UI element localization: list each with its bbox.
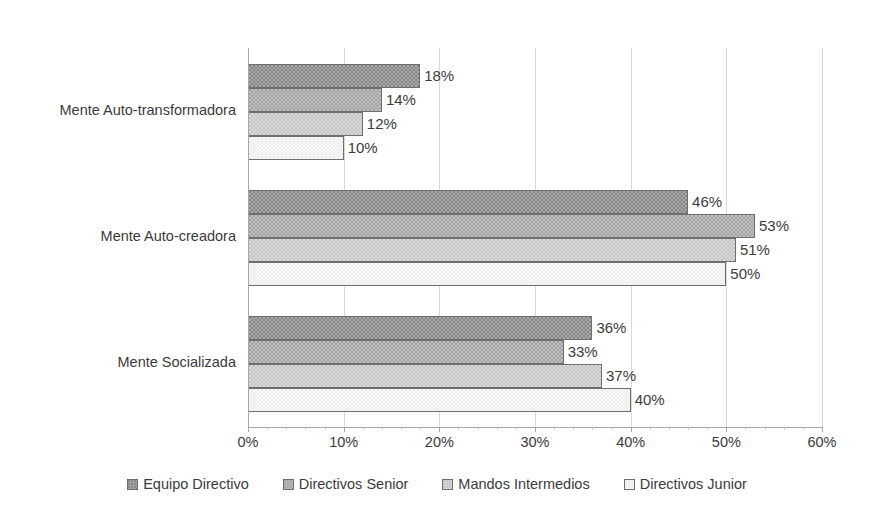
bar[interactable] bbox=[248, 364, 602, 388]
bar-value-label: 33% bbox=[568, 341, 598, 363]
axis-tick-minor bbox=[420, 427, 421, 430]
bar-group: 46%53%51%50% bbox=[248, 190, 822, 286]
bar-value-label: 18% bbox=[424, 65, 454, 87]
bar-group: 18%14%12%10% bbox=[248, 64, 822, 160]
bar-value-label: 36% bbox=[596, 317, 626, 339]
bar-row: 51% bbox=[248, 238, 822, 262]
axis-tick-minor bbox=[305, 427, 306, 430]
axis-tick-minor bbox=[458, 427, 459, 430]
bar-row: 18% bbox=[248, 64, 822, 88]
x-tick-label: 40% bbox=[601, 434, 661, 450]
bar[interactable] bbox=[248, 214, 755, 238]
bar[interactable] bbox=[248, 238, 736, 262]
bar[interactable] bbox=[248, 112, 363, 136]
axis-tick-minor bbox=[363, 427, 364, 430]
x-tick-label: 10% bbox=[314, 434, 374, 450]
axis-tick-minor bbox=[325, 427, 326, 430]
legend-swatch-icon bbox=[442, 479, 453, 490]
axis-tick-minor bbox=[650, 427, 651, 430]
axis-tick-minor bbox=[784, 427, 785, 430]
axis-tick-minor bbox=[478, 427, 479, 430]
legend-label: Directivos Senior bbox=[299, 476, 409, 492]
axis-tick-minor bbox=[707, 427, 708, 430]
y-axis-line bbox=[248, 48, 249, 428]
bar[interactable] bbox=[248, 388, 631, 412]
bar-row: 40% bbox=[248, 388, 822, 412]
axis-tick-20 bbox=[439, 427, 440, 432]
axis-tick-minor bbox=[592, 427, 593, 430]
bar-value-label: 46% bbox=[692, 191, 722, 213]
legend-label: Equipo Directivo bbox=[143, 476, 249, 492]
axis-tick-minor bbox=[554, 427, 555, 430]
axis-tick-40 bbox=[631, 427, 632, 432]
axis-tick-minor bbox=[688, 427, 689, 430]
bar[interactable] bbox=[248, 64, 420, 88]
legend-item[interactable]: Equipo Directivo bbox=[127, 476, 249, 492]
x-tick-label: 20% bbox=[409, 434, 469, 450]
bar-row: 53% bbox=[248, 214, 822, 238]
bar[interactable] bbox=[248, 190, 688, 214]
legend-swatch-icon bbox=[624, 479, 635, 490]
category-label: Mente Socializada bbox=[0, 354, 236, 370]
x-tick-label: 0% bbox=[218, 434, 278, 450]
bar-group: 36%33%37%40% bbox=[248, 316, 822, 412]
bar-row: 12% bbox=[248, 112, 822, 136]
axis-tick-minor bbox=[803, 427, 804, 430]
axis-tick-minor bbox=[497, 427, 498, 430]
axis-tick-minor bbox=[573, 427, 574, 430]
bar-value-label: 14% bbox=[386, 89, 416, 111]
plot-area: 18%14%12%10%46%53%51%50%36%33%37%40% bbox=[248, 48, 822, 427]
axis-tick-minor bbox=[745, 427, 746, 430]
bar[interactable] bbox=[248, 340, 564, 364]
bar-value-label: 40% bbox=[635, 389, 665, 411]
axis-tick-minor bbox=[382, 427, 383, 430]
axis-tick-50 bbox=[726, 427, 727, 432]
legend-item[interactable]: Mandos Intermedios bbox=[442, 476, 589, 492]
axis-tick-minor bbox=[765, 427, 766, 430]
legend-swatch-icon bbox=[283, 479, 294, 490]
bar-row: 14% bbox=[248, 88, 822, 112]
axis-tick-minor bbox=[267, 427, 268, 430]
bar-row: 36% bbox=[248, 316, 822, 340]
legend-swatch-icon bbox=[127, 479, 138, 490]
bar[interactable] bbox=[248, 88, 382, 112]
legend-label: Mandos Intermedios bbox=[458, 476, 589, 492]
x-tick-label: 30% bbox=[505, 434, 565, 450]
legend-item[interactable]: Directivos Senior bbox=[283, 476, 409, 492]
axis-tick-0 bbox=[248, 427, 249, 432]
bar-value-label: 37% bbox=[606, 365, 636, 387]
x-tick-label: 60% bbox=[792, 434, 852, 450]
axis-tick-10 bbox=[344, 427, 345, 432]
bar-row: 33% bbox=[248, 340, 822, 364]
bar[interactable] bbox=[248, 136, 344, 160]
bar-value-label: 51% bbox=[740, 239, 770, 261]
bar-row: 46% bbox=[248, 190, 822, 214]
bar-value-label: 53% bbox=[759, 215, 789, 237]
x-axis-ticks bbox=[248, 427, 823, 433]
axis-tick-minor bbox=[612, 427, 613, 430]
bar[interactable] bbox=[248, 316, 592, 340]
axis-tick-minor bbox=[516, 427, 517, 430]
axis-tick-minor bbox=[401, 427, 402, 430]
bar-row: 50% bbox=[248, 262, 822, 286]
bar-value-label: 10% bbox=[348, 137, 378, 159]
bar-value-label: 12% bbox=[367, 113, 397, 135]
legend-label: Directivos Junior bbox=[640, 476, 747, 492]
bar-value-label: 50% bbox=[730, 263, 760, 285]
axis-tick-minor bbox=[286, 427, 287, 430]
x-tick-label: 50% bbox=[696, 434, 756, 450]
axis-tick-30 bbox=[535, 427, 536, 432]
axis-tick-60 bbox=[822, 427, 823, 432]
category-label: Mente Auto-transformadora bbox=[0, 102, 236, 118]
bar-row: 37% bbox=[248, 364, 822, 388]
category-label: Mente Auto-creadora bbox=[0, 228, 236, 244]
gridline-60 bbox=[822, 48, 823, 427]
bar-row: 10% bbox=[248, 136, 822, 160]
chart-legend: Equipo DirectivoDirectivos SeniorMandos … bbox=[0, 472, 874, 496]
bar[interactable] bbox=[248, 262, 726, 286]
bar-chart: 18%14%12%10%46%53%51%50%36%33%37%40% Men… bbox=[0, 0, 874, 522]
legend-item[interactable]: Directivos Junior bbox=[624, 476, 747, 492]
axis-tick-minor bbox=[669, 427, 670, 430]
